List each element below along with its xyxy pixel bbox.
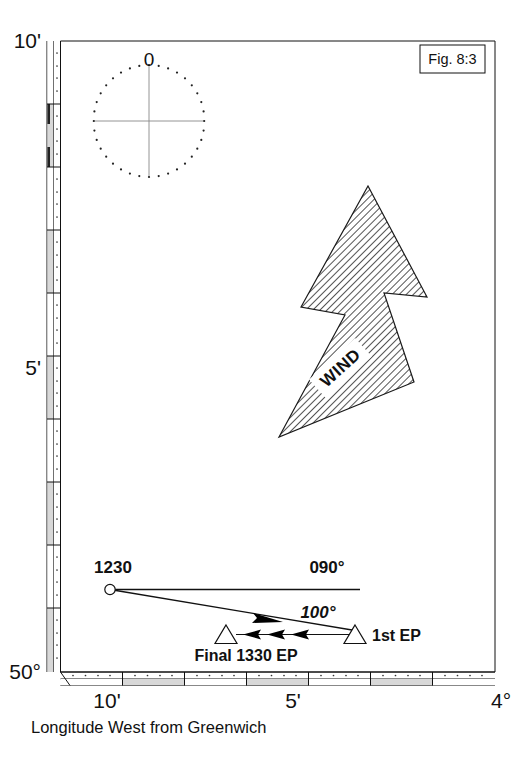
longitude-tick-label-10: 10' <box>93 689 120 712</box>
longitude-minute-bands <box>61 679 496 686</box>
final-ep-label: Final 1330 EP <box>194 647 297 664</box>
navigation-chart-figure: 0 WIND <box>0 0 527 761</box>
longitude-tick-label-5: 5' <box>285 689 301 712</box>
final-ep-marker <box>215 625 237 644</box>
track-made-good-label: 100° <box>300 603 335 622</box>
latitude-tick-label-10: 10' <box>14 29 41 52</box>
compass-north-label: 0 <box>144 49 155 70</box>
departure-fix-marker <box>105 584 115 594</box>
departure-fix-label: 1230 <box>94 558 132 577</box>
wind-arrow-shape <box>279 186 427 437</box>
first-ep-label: 1st EP <box>372 627 421 644</box>
longitude-scale-ruler <box>61 672 496 686</box>
chart-canvas: 0 WIND <box>0 0 527 761</box>
latitude-tick-label-5: 5' <box>25 356 41 379</box>
wind-arrow: WIND <box>279 186 427 437</box>
latitude-tick-label-50deg: 50° <box>9 660 41 683</box>
figure-label-box: Fig. 8:3 <box>420 45 485 73</box>
compass-rose: 0 <box>93 49 206 178</box>
plot-frame <box>61 41 496 672</box>
longitude-tick-label-4deg: 4° <box>491 689 511 712</box>
tidal-set-arrowheads <box>243 630 309 640</box>
latitude-scale-ruler <box>47 41 61 672</box>
course-steered-label: 090° <box>309 558 344 577</box>
longitude-subdivision-dots <box>72 675 483 677</box>
figure-label: Fig. 8:3 <box>428 51 476 67</box>
axis-caption: Longitude West from Greenwich <box>31 718 266 736</box>
